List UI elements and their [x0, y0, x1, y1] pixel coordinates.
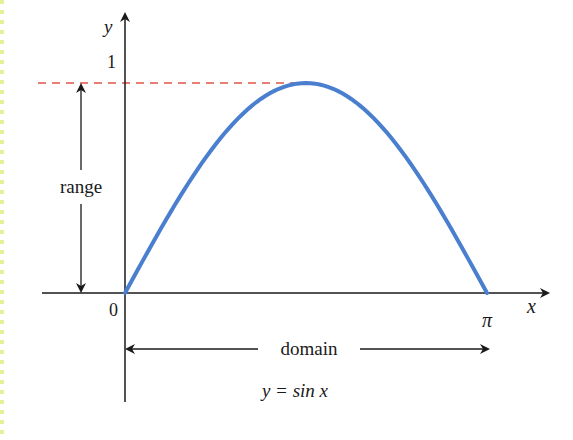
figure-frame: y 1 0 π x range domain y = sin x [0, 0, 573, 440]
y-tick-1: 1 [107, 52, 116, 72]
origin-label: 0 [109, 300, 118, 320]
domain-label: domain [281, 338, 338, 359]
sine-diagram: y 1 0 π x range domain y = sin x [0, 0, 573, 440]
y-axis-label: y [102, 16, 113, 37]
sine-curve [125, 83, 487, 293]
range-label: range [60, 176, 102, 197]
pi-label: π [482, 309, 493, 331]
x-axis-label: x [526, 295, 536, 317]
caption: y = sin x [260, 380, 329, 401]
